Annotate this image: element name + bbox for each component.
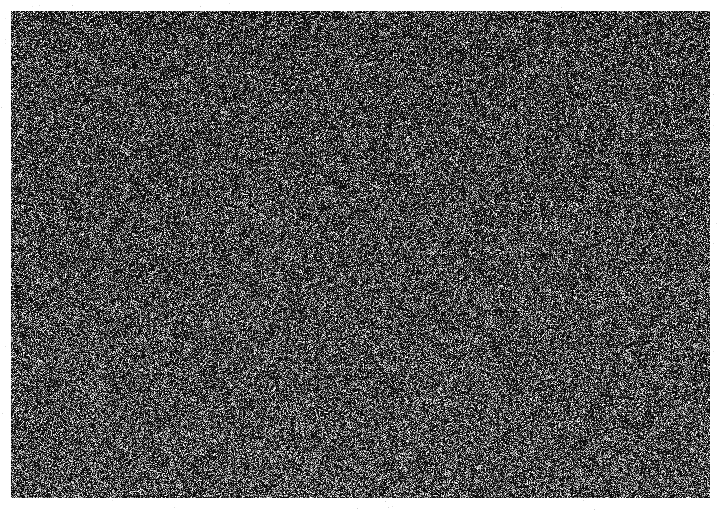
noise-canvas <box>11 11 710 498</box>
noise-texture-block <box>11 11 710 498</box>
page-root: Noise Texture Scan Full-frame rectangula… <box>0 0 718 510</box>
